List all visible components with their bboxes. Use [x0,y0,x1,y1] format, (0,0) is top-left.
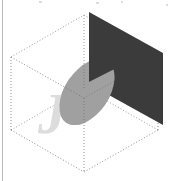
isometric-diagram: J [0,0,171,181]
left-margin-rule [2,0,3,181]
crop-artifacts [39,1,168,6]
diagram-canvas: J [0,0,171,181]
